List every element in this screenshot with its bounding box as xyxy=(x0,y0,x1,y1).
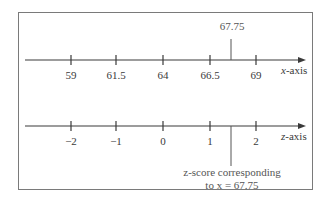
z-tick-label: 1 xyxy=(207,135,213,147)
x-tick-label: 61.5 xyxy=(106,69,125,81)
z-axis-arrow-icon xyxy=(298,123,306,129)
z-tick-label: −2 xyxy=(65,135,77,147)
annotation-line-2: to x = 67.75 xyxy=(183,179,280,192)
x-tick-label: 64 xyxy=(158,69,169,81)
z-axis-label: z-axis xyxy=(281,130,307,142)
x-marker-label: 67.75 xyxy=(220,20,245,32)
z-tick-label: 2 xyxy=(253,135,259,147)
z-tick-label: −1 xyxy=(110,135,122,147)
annotation-line-1: z-score corresponding xyxy=(183,166,280,179)
x-axis-arrow-icon xyxy=(298,57,306,63)
x-tick-label: 59 xyxy=(66,69,77,81)
x-tick-label: 66.5 xyxy=(200,69,219,81)
z-score-annotation: z-score corresponding to x = 67.75 xyxy=(183,166,280,192)
z-tick-label: 0 xyxy=(160,135,166,147)
x-tick-label: 69 xyxy=(251,69,262,81)
x-axis-label: x-axis xyxy=(281,64,307,76)
